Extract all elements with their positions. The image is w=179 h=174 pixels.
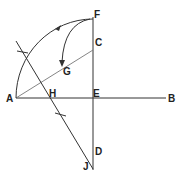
label-h: H bbox=[49, 88, 56, 99]
arc-fg bbox=[62, 19, 90, 62]
label-d: D bbox=[95, 146, 102, 157]
label-a: A bbox=[6, 93, 13, 104]
construction-diagram: A B C D E F G H J bbox=[0, 0, 179, 174]
label-e: E bbox=[93, 88, 100, 99]
arc-af bbox=[16, 19, 93, 98]
label-g: G bbox=[63, 66, 71, 77]
label-j: J bbox=[83, 161, 89, 172]
label-c: C bbox=[95, 37, 102, 48]
label-b: B bbox=[168, 93, 175, 104]
line-bisector bbox=[16, 41, 93, 169]
label-f: F bbox=[94, 9, 100, 20]
arc-arrow-icon bbox=[55, 25, 61, 31]
